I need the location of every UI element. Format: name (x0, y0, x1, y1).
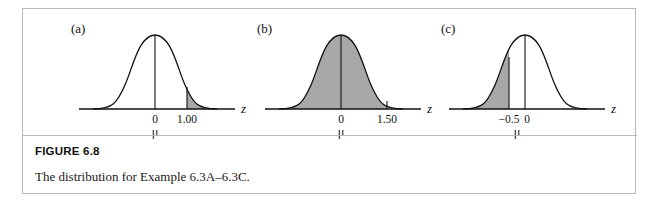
panel-b-tick-1: 1.50 (371, 113, 403, 125)
panel-a: (a) z 0 (65, 13, 261, 133)
panels-row: (a) z 0 (23, 9, 637, 134)
panel-b-tick-0: 0 (329, 113, 353, 125)
panel-b: (b) z 0 1.50 μ (251, 13, 447, 133)
panel-c-tick-1: 0 (515, 113, 539, 125)
panel-c-mu-label: μ (505, 125, 529, 140)
figure-card: (a) z 0 (22, 8, 636, 194)
figure-caption: The distribution for Example 6.3A–6.3C. (35, 169, 250, 185)
panel-a-tick-1: 1.00 (171, 113, 203, 125)
caption-divider (23, 135, 637, 136)
panel-a-axis-letter: z (241, 101, 246, 117)
figure-number: FIGURE 6.8 (35, 145, 100, 157)
panel-b-axis-letter: z (427, 101, 432, 117)
panel-a-mu-label: μ (143, 125, 167, 140)
panel-b-mu-label: μ (329, 125, 353, 140)
panel-a-tick-0: 0 (143, 113, 167, 125)
panel-c-axis-letter: z (611, 101, 616, 117)
panel-c: (c) z −0.5 0 μ (435, 13, 631, 133)
